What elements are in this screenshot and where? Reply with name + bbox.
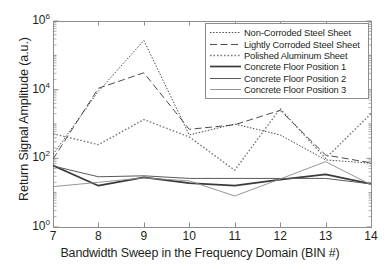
legend-item-1: Non-Corroded Steel Sheet <box>209 27 364 38</box>
legend-line-sample <box>209 50 242 61</box>
legend-label: Non-Corroded Steel Sheet <box>242 27 351 38</box>
legend-line-sample <box>209 73 242 84</box>
legend-line-sample <box>209 39 242 50</box>
legend-label: Concrete Floor Position 3 <box>242 84 346 95</box>
x-tick-label-7: 7 <box>38 229 68 243</box>
legend-item-4: Concrete Floor Position 1 <box>209 61 364 72</box>
legend-line-sample <box>209 61 242 72</box>
legend-item-2: Lightly Corroded Steel Sheet <box>209 38 364 49</box>
legend-label: Lightly Corroded Steel Sheet <box>242 39 360 50</box>
legend-label: Concrete Floor Position 1 <box>242 61 346 72</box>
chart-figure: Return Signal Amplitude (a.u.) Bandwidth… <box>0 0 387 269</box>
y-tick-label-10e6: 106 <box>10 13 50 27</box>
legend-item-5: Concrete Floor Position 2 <box>209 73 364 84</box>
series-line-4 <box>53 165 371 185</box>
legend-label: Polished Aluminum Sheet <box>242 50 347 61</box>
legend-line-sample <box>209 84 242 95</box>
x-tick-label-8: 8 <box>83 229 113 243</box>
y-tick-label-10e4: 104 <box>10 82 50 96</box>
x-tick-label-14: 14 <box>356 229 386 243</box>
x-tick-label-11: 11 <box>220 229 250 243</box>
legend-line-sample <box>209 27 242 38</box>
x-tick-label-12: 12 <box>265 229 295 243</box>
x-tick-label-13: 13 <box>311 229 341 243</box>
legend-item-6: Concrete Floor Position 3 <box>209 84 364 95</box>
x-tick-label-10: 10 <box>174 229 204 243</box>
legend-label: Concrete Floor Position 2 <box>242 73 346 84</box>
y-tick-label-10e2: 102 <box>10 150 50 164</box>
series-line-3 <box>53 109 371 171</box>
x-tick-label-9: 9 <box>129 229 159 243</box>
chart-legend: Non-Corroded Steel SheetLightly Corroded… <box>205 23 369 99</box>
legend-item-3: Polished Aluminum Sheet <box>209 50 364 61</box>
